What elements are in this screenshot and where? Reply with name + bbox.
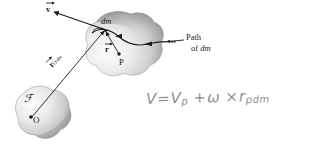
equation-omega: ω — [207, 88, 221, 106]
equation-plus: + — [193, 88, 207, 106]
velocity-vector-glyph: v — [46, 4, 50, 14]
handwritten-equation: V=Vp +ω ×rpdm — [146, 87, 270, 108]
label-reference-frame: ℱ — [24, 93, 33, 104]
velocity-vector-overarrow — [46, 1, 55, 5]
equation-term2-subscript: pdm — [246, 94, 270, 106]
label-mass-element: dm — [101, 17, 111, 26]
label-path-line1: Path — [186, 33, 201, 42]
label-velocity-vector: v — [46, 5, 50, 14]
equation-term1-symbol: V — [170, 89, 181, 107]
equation-cross: × — [225, 88, 239, 106]
figure-canvas — [0, 0, 309, 150]
label-path-of-prefix: of — [191, 43, 200, 53]
label-position-vector: r — [105, 45, 109, 54]
mechanics-figure: v dm r P Path of dm — [0, 0, 309, 150]
label-origin-o: O — [33, 116, 40, 125]
equation-term1-subscript: p — [181, 96, 188, 107]
point-p-marker — [117, 52, 120, 55]
position-vector-glyph: r — [105, 44, 109, 54]
label-path-line2: of dm — [191, 44, 211, 53]
path-label-leader — [167, 40, 184, 42]
position-vector-overarrow — [105, 42, 113, 46]
equation-lhs: V — [146, 90, 157, 108]
label-point-p: P — [119, 58, 124, 67]
label-path-dm-italic: dm — [200, 43, 210, 53]
equation-equals: = — [157, 89, 171, 107]
